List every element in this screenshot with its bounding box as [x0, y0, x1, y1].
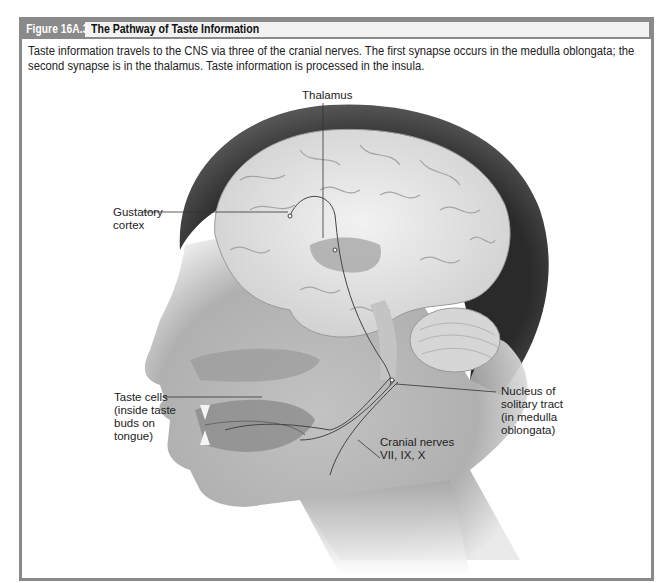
label-nucleus-line2: solitary tract: [501, 398, 563, 411]
label-cranial-nerves-line2: VII, IX, X: [380, 449, 454, 462]
label-nucleus-line4: oblongata): [501, 424, 563, 437]
label-cranial-nerves: Cranial nerves VII, IX, X: [380, 436, 454, 462]
label-taste-cells-line3: buds on: [114, 417, 176, 430]
head-brain-illustration: [0, 0, 668, 583]
label-nucleus-solitary-tract: Nucleus of solitary tract (in medulla ob…: [501, 385, 563, 437]
label-nucleus-line1: Nucleus of: [501, 385, 563, 398]
label-taste-cells-line2: (inside taste: [114, 404, 176, 417]
label-gustatory-cortex-line1: Gustatory: [113, 206, 163, 219]
label-gustatory-cortex-line2: cortex: [113, 219, 163, 232]
label-taste-cells-line1: Taste cells: [114, 391, 176, 404]
label-cranial-nerves-line1: Cranial nerves: [380, 436, 454, 449]
label-thalamus: Thalamus: [302, 89, 353, 102]
label-taste-cells-line4: tongue): [114, 430, 176, 443]
label-taste-cells: Taste cells (inside taste buds on tongue…: [114, 391, 176, 443]
label-nucleus-line3: (in medulla: [501, 411, 563, 424]
label-gustatory-cortex: Gustatory cortex: [113, 206, 163, 232]
